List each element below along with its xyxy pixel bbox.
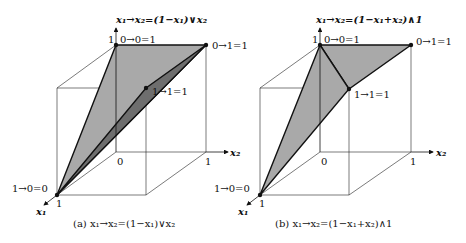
label-v111-a: 1→1=1	[152, 86, 188, 97]
panel-a: x₁→x₂=(1−x₁)∨x₂ 1 0→0=1 0→1=1 1→1=1 1→0=…	[12, 14, 248, 229]
axis-title-a: x₁→x₂=(1−x₁)∨x₂	[115, 14, 208, 25]
vertex-111-b	[347, 87, 351, 91]
vertex-100-a	[55, 193, 59, 197]
vertex-001-b	[318, 43, 322, 47]
label-origin-a: 0	[117, 156, 123, 167]
label-x1-axis-b: x₁	[237, 206, 248, 217]
label-x1-one-b: 1	[259, 198, 265, 209]
vertex-100-b	[258, 193, 262, 197]
label-x2-one-b: 1	[410, 156, 416, 167]
label-x1-axis-a: x₁	[35, 206, 46, 217]
label-x2-axis-a: x₂	[229, 147, 241, 158]
label-v001-b: 0→0=1	[324, 34, 360, 45]
label-v011-b: 0→1=1	[416, 36, 452, 47]
label-v100-a: 1→0=0	[12, 183, 48, 194]
label-v111-b: 1→1=1	[354, 89, 390, 100]
label-v001-a: 0→0=1	[120, 34, 156, 45]
vertex-011-b	[409, 43, 413, 47]
label-top-one-a: 1	[108, 34, 114, 45]
caption-b: (b) x₁→x₂=(1−x₁+x₂)∧1	[275, 218, 392, 229]
label-origin-b: 0	[321, 156, 327, 167]
label-x1-one-a: 1	[56, 198, 62, 209]
label-x2-one-a: 1	[205, 156, 211, 167]
vertex-011-a	[204, 43, 208, 47]
vertex-111-a	[144, 86, 148, 90]
caption-a: (a) x₁→x₂=(1−x₁)∨x₂	[73, 218, 175, 229]
label-v100-b: 1→0=0	[214, 183, 250, 194]
panel-b: x₁→x₂=(1−x₁+x₂)∧1 1 0→0=1 0→1=1 1→1=1 1→…	[214, 14, 452, 229]
label-v011-a: 0→1=1	[212, 40, 248, 51]
surface-slope-b	[260, 45, 349, 195]
implication-diagrams: x₁→x₂=(1−x₁)∨x₂ 1 0→0=1 0→1=1 1→1=1 1→0=…	[0, 0, 466, 243]
vertex-001-a	[114, 43, 118, 47]
axis-title-b: x₁→x₂=(1−x₁+x₂)∧1	[315, 14, 422, 25]
label-x2-axis-b: x₂	[435, 147, 447, 158]
label-top-one-b: 1	[312, 34, 318, 45]
